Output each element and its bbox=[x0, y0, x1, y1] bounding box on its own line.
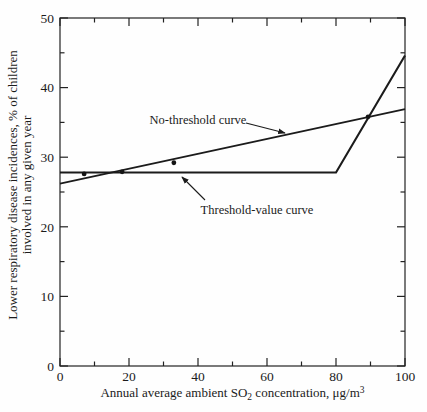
figure-container: 02040608010001020304050No-threshold curv… bbox=[0, 0, 427, 412]
x-tick-label: 40 bbox=[191, 369, 205, 384]
y-axis-label-line2: involved in any given year bbox=[19, 115, 34, 254]
plot-frame bbox=[60, 18, 405, 366]
data-point bbox=[120, 169, 125, 174]
x-tick-label: 20 bbox=[122, 369, 136, 384]
y-tick-label: 50 bbox=[41, 11, 55, 26]
x-tick-label: 60 bbox=[260, 369, 274, 384]
annotation-arrow bbox=[246, 123, 285, 133]
data-point bbox=[366, 114, 371, 119]
x-tick-label: 100 bbox=[395, 369, 416, 384]
annotation-label: Threshold-value curve bbox=[201, 203, 314, 217]
y-tick-label: 20 bbox=[41, 220, 55, 235]
y-tick-label: 40 bbox=[41, 80, 55, 95]
data-point bbox=[171, 160, 176, 165]
annotation-arrow bbox=[182, 177, 205, 200]
x-tick-label: 80 bbox=[329, 369, 343, 384]
x-axis-label: Annual average ambient SO2 concentration… bbox=[100, 385, 364, 402]
data-point bbox=[82, 172, 87, 177]
annotation-label: No-threshold curve bbox=[150, 113, 247, 127]
y-tick-label: 30 bbox=[41, 150, 55, 165]
y-tick-label: 10 bbox=[41, 289, 55, 304]
chart-canvas: 02040608010001020304050No-threshold curv… bbox=[0, 0, 427, 412]
y-tick-label: 0 bbox=[47, 359, 54, 374]
x-tick-label: 0 bbox=[57, 369, 64, 384]
